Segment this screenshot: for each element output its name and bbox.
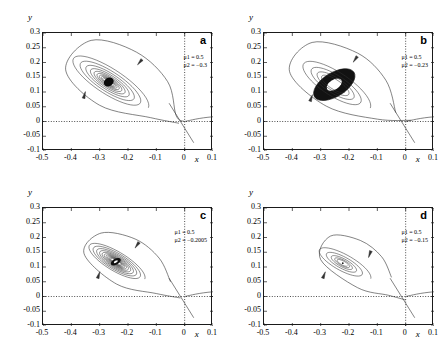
y-tick-label: 0.3 bbox=[223, 28, 261, 36]
y-tick-label: -0.05 bbox=[223, 306, 261, 314]
x-tick-label: 0 bbox=[392, 329, 418, 337]
x-tick-label: -0.3 bbox=[307, 154, 333, 162]
plot-frame: dμ1 = 0.5μ2 = −0.15 bbox=[263, 207, 433, 325]
x-axis-label: x bbox=[416, 154, 420, 164]
y-tick-label: 0.2 bbox=[2, 233, 40, 241]
mu2-value: μ2 = −0.2005 bbox=[175, 236, 207, 244]
mu2-value: μ2 = −0.23 bbox=[402, 61, 428, 69]
panel-d: y0.30.250.20.150.10.050-0.05-0.1-0.5-0.4… bbox=[221, 175, 442, 350]
panel-letter: b bbox=[420, 34, 427, 46]
invariant-curve-annulus bbox=[308, 62, 360, 107]
trajectory-arrow bbox=[96, 272, 100, 279]
y-tick-label: 0.25 bbox=[2, 43, 40, 51]
y-axis-ticks: 0.30.250.20.150.10.050-0.05-0.1 bbox=[0, 175, 40, 350]
trajectory-arrow bbox=[82, 92, 85, 99]
trajectory-arrow bbox=[353, 56, 358, 62]
x-tick-label: -0.3 bbox=[86, 154, 112, 162]
x-tick-label: -0.1 bbox=[363, 329, 389, 337]
y-tick-label: 0 bbox=[223, 117, 261, 125]
x-tick-label: 0 bbox=[171, 329, 197, 337]
y-tick-label: 0.2 bbox=[2, 58, 40, 66]
parameter-annotation: μ1 = 0.5μ2 = −0.23 bbox=[402, 53, 428, 69]
y-tick-label: 0 bbox=[223, 292, 261, 300]
saddle-branch-right bbox=[185, 292, 213, 297]
x-tick-label: -0.1 bbox=[363, 154, 389, 162]
x-tick-label: -0.5 bbox=[250, 154, 276, 162]
mu2-value: μ2 = −0.15 bbox=[402, 236, 428, 244]
x-tick-label: 0.1 bbox=[420, 154, 442, 162]
trajectory-arrow bbox=[138, 59, 144, 65]
y-tick-label: 0.3 bbox=[2, 203, 40, 211]
saddle-separatrix bbox=[390, 103, 415, 143]
y-tick-label: 0.15 bbox=[223, 72, 261, 80]
trajectory-arrow bbox=[135, 242, 140, 249]
x-tick-label: -0.2 bbox=[335, 154, 361, 162]
panel-letter: d bbox=[420, 209, 427, 221]
x-tick-label: -0.5 bbox=[29, 329, 55, 337]
y-tick-label: -0.05 bbox=[223, 131, 261, 139]
y-tick-label: -0.1 bbox=[223, 146, 261, 154]
x-tick-label: -0.5 bbox=[29, 154, 55, 162]
panel-b: y0.30.250.20.150.10.050-0.05-0.1-0.5-0.4… bbox=[221, 0, 442, 175]
y-tick-label: 0.15 bbox=[2, 72, 40, 80]
plot-canvas bbox=[43, 33, 213, 151]
y-tick-label: 0.25 bbox=[223, 218, 261, 226]
y-tick-label: 0 bbox=[2, 292, 40, 300]
y-tick-label: 0.1 bbox=[223, 87, 261, 95]
x-tick-label: -0.2 bbox=[114, 154, 140, 162]
x-tick-label: -0.4 bbox=[57, 329, 83, 337]
panel-c: y0.30.250.20.150.10.050-0.05-0.1-0.5-0.4… bbox=[0, 175, 221, 350]
y-tick-label: 0.1 bbox=[2, 87, 40, 95]
panel-letter: a bbox=[200, 34, 206, 46]
mu2-value: μ2 = −0.3 bbox=[184, 61, 207, 69]
plot-canvas bbox=[43, 208, 213, 326]
phase-portrait-figure: y0.30.250.20.150.10.050-0.05-0.1-0.5-0.4… bbox=[0, 0, 442, 350]
x-tick-label: -0.4 bbox=[278, 154, 304, 162]
plot-frame: aμ1 = 0.5μ2 = −0.3 bbox=[42, 32, 212, 150]
x-tick-label: 0.1 bbox=[420, 329, 442, 337]
x-tick-label: -0.1 bbox=[142, 154, 168, 162]
plot-canvas bbox=[264, 33, 434, 151]
x-tick-label: -0.5 bbox=[250, 329, 276, 337]
parameter-annotation: μ1 = 0.5μ2 = −0.2005 bbox=[175, 228, 207, 244]
mu1-value: μ1 = 0.5 bbox=[175, 228, 207, 236]
mu1-value: μ1 = 0.5 bbox=[402, 228, 428, 236]
parameter-annotation: μ1 = 0.5μ2 = −0.3 bbox=[184, 53, 207, 69]
y-axis-ticks: 0.30.250.20.150.10.050-0.05-0.1 bbox=[0, 0, 40, 175]
panel-a: y0.30.250.20.150.10.050-0.05-0.1-0.5-0.4… bbox=[0, 0, 221, 175]
y-tick-label: 0.25 bbox=[2, 218, 40, 226]
y-tick-label: -0.1 bbox=[2, 321, 40, 329]
saddle-branch-right bbox=[185, 117, 213, 122]
y-axis-ticks: 0.30.250.20.150.10.050-0.05-0.1 bbox=[221, 0, 261, 175]
trajectory-arrow bbox=[321, 272, 325, 279]
x-axis-label: x bbox=[416, 329, 420, 339]
plot-canvas bbox=[264, 208, 434, 326]
y-tick-label: 0.05 bbox=[2, 277, 40, 285]
parameter-annotation: μ1 = 0.5μ2 = −0.15 bbox=[402, 228, 428, 244]
y-tick-label: -0.05 bbox=[2, 131, 40, 139]
y-axis-ticks: 0.30.250.20.150.10.050-0.05-0.1 bbox=[221, 175, 261, 350]
plot-frame: cμ1 = 0.5μ2 = −0.2005 bbox=[42, 207, 212, 325]
saddle-separatrix bbox=[390, 278, 415, 318]
y-tick-label: -0.1 bbox=[2, 146, 40, 154]
saddle-branch-right bbox=[406, 292, 434, 297]
y-tick-label: -0.05 bbox=[2, 306, 40, 314]
outer-separatrix-loop bbox=[66, 40, 185, 124]
mu1-value: μ1 = 0.5 bbox=[402, 53, 428, 61]
y-tick-label: 0.05 bbox=[223, 102, 261, 110]
x-tick-label: -0.4 bbox=[278, 329, 304, 337]
x-tick-label: -0.3 bbox=[307, 329, 333, 337]
y-tick-label: 0.15 bbox=[223, 247, 261, 255]
y-tick-label: 0.2 bbox=[223, 233, 261, 241]
plot-frame: bμ1 = 0.5μ2 = −0.23 bbox=[263, 32, 433, 150]
x-tick-label: -0.4 bbox=[57, 154, 83, 162]
saddle-separatrix bbox=[169, 278, 194, 318]
x-tick-label: -0.3 bbox=[86, 329, 112, 337]
y-tick-label: 0.1 bbox=[223, 262, 261, 270]
y-tick-label: 0.3 bbox=[223, 203, 261, 211]
y-tick-label: 0.05 bbox=[2, 102, 40, 110]
y-tick-label: 0.15 bbox=[2, 247, 40, 255]
outer-separatrix-loop bbox=[319, 235, 405, 300]
y-tick-label: 0.3 bbox=[2, 28, 40, 36]
saddle-separatrix bbox=[169, 103, 194, 143]
